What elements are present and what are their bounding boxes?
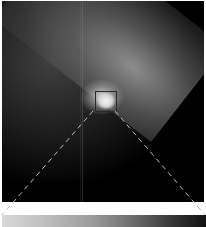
zoomed-inset-strip [2, 215, 206, 227]
zoom-region-box [95, 91, 117, 112]
separator-band [0, 203, 206, 215]
detector-streak [80, 1, 81, 202]
galaxy-image [2, 1, 204, 202]
detector-streak [82, 1, 83, 202]
